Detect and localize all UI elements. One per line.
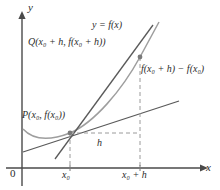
- point-q-marker: [138, 55, 143, 60]
- calculus-derivative-figure: y x 0 y = f(x) Q(x₀ + h, f(x₀ + h)) f(x₀…: [0, 0, 220, 190]
- tick-label-x0: x₀: [62, 170, 70, 180]
- rise-label: f(x₀ + h) − f(x₀): [141, 64, 204, 74]
- x-axis-label: x: [206, 162, 211, 173]
- tick-label-x0-plus-h: x₀ + h: [122, 170, 147, 180]
- y-axis-arrowhead: [18, 11, 25, 19]
- y-axis-label: y: [28, 2, 33, 13]
- y-axis: [18, 11, 25, 186]
- origin-label: 0: [10, 168, 16, 179]
- point-p-label: P(x₀, f(x₀)): [22, 110, 65, 120]
- function-curve-label: y = f(x): [92, 20, 122, 30]
- x-axis: [6, 164, 208, 171]
- point-q-label: Q(x₀ + h, f(x₀ + h)): [28, 37, 106, 47]
- run-label: h: [97, 138, 102, 148]
- point-p-marker: [68, 131, 73, 136]
